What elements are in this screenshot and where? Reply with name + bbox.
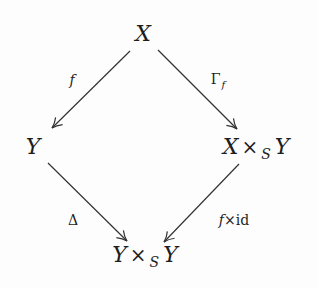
base-subscript: S [261, 146, 271, 162]
node-right-left-factor: X [223, 134, 239, 159]
label-delta-text: Δ [68, 212, 78, 228]
times-operator: × [130, 243, 147, 267]
times-operator: × [241, 135, 258, 159]
label-f-text: f [69, 72, 74, 88]
node-top-x-text: X [135, 21, 151, 46]
commutative-diagram: X Y X×SY Y×SY f Γf Δ f×id [0, 0, 318, 288]
arrow-gamma-f [158, 50, 237, 129]
label-delta: Δ [68, 213, 78, 227]
label-f-times-id: f×id [219, 213, 249, 227]
label-gamma-base: Γ [211, 71, 221, 87]
label-times-part: × [224, 212, 236, 228]
node-bottom-right-factor: Y [163, 242, 178, 267]
arrow-f [52, 51, 130, 128]
arrow-f-times-id [164, 164, 239, 242]
node-left-y: Y [26, 136, 41, 158]
node-bottom-left-factor: Y [112, 242, 127, 267]
label-gamma-subscript: f [222, 79, 226, 90]
base-subscript: S [150, 254, 160, 270]
node-right-fiber-product: X×SY [223, 136, 290, 158]
arrow-delta [48, 163, 127, 241]
node-top-x: X [135, 23, 151, 45]
node-right-right-factor: Y [275, 134, 290, 159]
node-left-y-text: Y [26, 134, 41, 159]
label-f: f [69, 73, 74, 87]
label-gamma-f: Γf [211, 72, 225, 86]
label-id-part: id [236, 212, 249, 228]
node-bottom-fiber-product: Y×SY [112, 244, 177, 266]
